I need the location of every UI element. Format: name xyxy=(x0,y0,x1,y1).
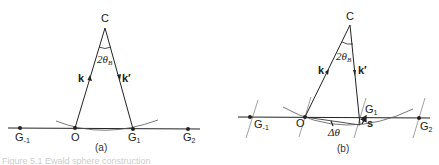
label-kprime: k′ xyxy=(358,64,367,76)
figure-caption-fragment: Figure 5.1 Ewald sphere construction xyxy=(2,156,151,165)
ewald-diagram: C 2θB k k′ G-1 O G1 G2 (a) C 2θB k k′ xyxy=(0,0,439,165)
lattice-row-line xyxy=(238,117,430,118)
label-origin: O xyxy=(296,117,305,129)
label-g-minus1: G-1 xyxy=(15,131,30,144)
label-kprime: k′ xyxy=(122,72,131,84)
panel-a: C 2θB k k′ G-1 O G1 G2 (a) xyxy=(8,12,200,153)
label-angle: 2θB xyxy=(336,50,352,64)
label-s: s xyxy=(367,117,373,129)
label-delta-theta: Δθ xyxy=(327,126,340,138)
lattice-row-line xyxy=(8,128,200,129)
label-c: C xyxy=(101,12,109,24)
caption-a: (a) xyxy=(95,142,107,153)
caption-b: (b) xyxy=(337,143,349,154)
angle-arc xyxy=(99,47,111,49)
label-c: C xyxy=(346,10,354,22)
label-k: k xyxy=(78,72,85,84)
label-angle: 2θB xyxy=(97,53,113,67)
label-g2: G2 xyxy=(420,120,433,133)
label-origin: O xyxy=(71,131,80,143)
panel-b: C 2θB k k′ Δθ s G-1 O G1 G2 (b) xyxy=(238,10,433,154)
k-arrow-icon xyxy=(88,75,93,81)
point-g1 xyxy=(362,116,365,119)
point-g-minus1 xyxy=(248,115,252,119)
label-g-minus1: G-1 xyxy=(254,118,269,131)
label-g1: G1 xyxy=(365,103,378,116)
label-g1: G1 xyxy=(128,131,141,144)
kprime-arrow-icon xyxy=(353,70,356,76)
label-g2: G2 xyxy=(183,131,196,144)
label-k: k xyxy=(318,64,325,76)
point-origin xyxy=(73,126,77,130)
point-g-minus1 xyxy=(18,126,22,130)
